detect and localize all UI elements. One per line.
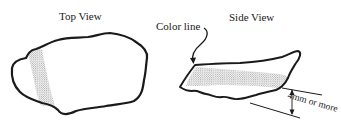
top-view-outline bbox=[12, 33, 147, 114]
top-view-stipple-band bbox=[28, 49, 55, 106]
top-view-title: Top View bbox=[59, 11, 102, 22]
top-view-drawing bbox=[12, 33, 147, 114]
color-line-label: Color line bbox=[156, 21, 200, 32]
diagram-stage: Top View Side View Color line 4mm or mor… bbox=[0, 0, 341, 130]
side-view-stipple-band bbox=[186, 67, 288, 88]
side-view-title: Side View bbox=[229, 12, 274, 23]
color-line-arrowhead-icon bbox=[190, 58, 196, 65]
dimension-arrowhead-down-icon bbox=[290, 110, 295, 116]
color-line-arrow bbox=[192, 28, 207, 62]
